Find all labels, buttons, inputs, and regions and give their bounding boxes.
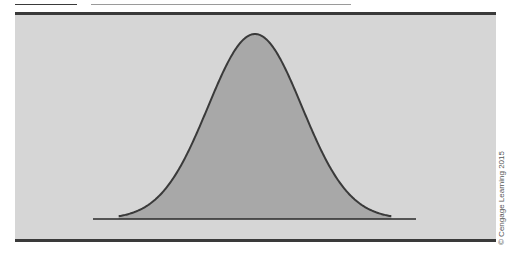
copyright-watermark: © Cengage Learning 2015 (497, 151, 506, 245)
bell-curve-chart (0, 0, 515, 257)
bell-curve-area (119, 34, 392, 219)
